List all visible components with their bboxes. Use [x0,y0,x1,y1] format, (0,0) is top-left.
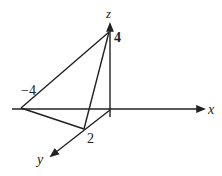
x-axis-label: x [207,102,215,117]
edge-xint-yint [21,108,84,129]
diagram-canvas: z 4 x −4 2 y [0,0,222,176]
x-intercept-label: −4 [21,83,36,98]
y-intercept-label: 2 [87,131,94,146]
z-intercept-label: 4 [114,30,121,45]
axes-diagram: z 4 x −4 2 y [0,0,222,176]
y-axis-label: y [35,152,44,167]
y-axis [51,110,110,156]
z-axis-label: z [105,6,111,21]
